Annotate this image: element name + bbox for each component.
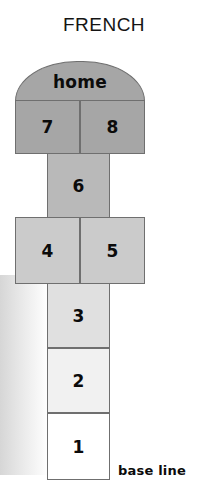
page-title: FRENCH <box>0 14 208 36</box>
hopscotch-cell-8: 8 <box>80 100 145 154</box>
cell-label-7: 7 <box>42 117 54 137</box>
cell-label-1: 1 <box>73 437 85 457</box>
home-arch-label: home <box>53 72 107 92</box>
hopscotch-cell-5: 5 <box>80 217 145 284</box>
scan-shadow-gradient <box>0 275 48 475</box>
base-line-label: base line <box>118 463 186 478</box>
cell-label-4: 4 <box>42 241 54 261</box>
home-arch-cell: home <box>15 61 145 101</box>
cell-label-8: 8 <box>107 117 119 137</box>
cell-label-3: 3 <box>73 306 85 326</box>
hopscotch-cell-7: 7 <box>15 100 80 154</box>
hopscotch-cell-4: 4 <box>15 217 80 284</box>
hopscotch-cell-6: 6 <box>47 153 110 218</box>
hopscotch-diagram: FRENCH home 7 8 6 4 5 3 2 1 base line <box>0 0 208 499</box>
cell-label-2: 2 <box>73 371 85 391</box>
cell-label-6: 6 <box>73 176 85 196</box>
cell-label-5: 5 <box>107 241 119 261</box>
hopscotch-cell-3: 3 <box>47 283 110 348</box>
hopscotch-cell-2: 2 <box>47 348 110 413</box>
hopscotch-cell-1: 1 <box>47 413 110 480</box>
